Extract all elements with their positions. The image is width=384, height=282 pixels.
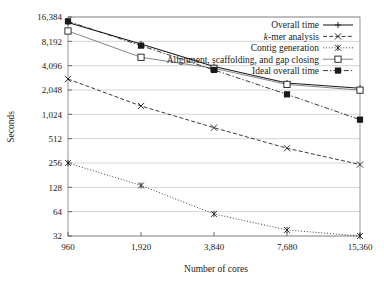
legend-item-1[interactable]: k-mer analysis — [264, 32, 353, 42]
y-axis-tick-labels: 32641282565121,0242,0484,0968,19216,384 — [37, 12, 62, 241]
legend-item-0[interactable]: Overall time — [271, 20, 353, 30]
data-point-asterisk — [335, 45, 341, 51]
data-point-asterisk — [284, 227, 290, 233]
data-point-open-square — [65, 28, 71, 34]
chart-legend: Overall timek-mer analysisContig generat… — [167, 20, 353, 76]
data-point-open-square — [357, 87, 363, 93]
data-point-open-square — [284, 81, 290, 87]
legend-item-label: Ideal overall time — [252, 66, 319, 76]
data-point-filled-square — [138, 43, 144, 49]
series-2 — [65, 160, 363, 239]
series-line — [68, 163, 360, 236]
legend-item-3[interactable]: Alignment, scaffolding, and gap closing — [167, 55, 353, 65]
y-axis-ticks-group — [68, 17, 72, 236]
x-tick-label: 960 — [61, 242, 75, 252]
y-tick-label: 2,048 — [42, 85, 63, 95]
legend-item-label: k-mer analysis — [264, 32, 319, 42]
y-tick-label: 128 — [49, 183, 63, 193]
data-point-open-square — [138, 54, 144, 60]
data-point-filled-square — [284, 91, 290, 97]
series-line — [68, 79, 360, 165]
y-tick-label: 1,024 — [42, 110, 63, 120]
data-point-cross — [284, 145, 290, 151]
data-point-filled-square — [211, 67, 217, 73]
data-point-plus — [335, 22, 341, 28]
chart-container: 32641282565121,0242,0484,0968,19216,384 … — [0, 0, 384, 282]
data-point-filled-square — [357, 117, 363, 123]
x-axis-tick-labels: 9601,9203,8407,68015,360 — [61, 242, 373, 252]
x-tick-label: 1,920 — [131, 242, 152, 252]
data-point-cross — [211, 125, 217, 131]
data-point-asterisk — [138, 182, 144, 188]
series-1 — [65, 76, 363, 168]
legend-item-label: Alignment, scaffolding, and gap closing — [167, 55, 320, 65]
y-tick-label: 8,192 — [42, 37, 62, 47]
legend-item-4[interactable]: Ideal overall time — [252, 66, 353, 76]
y-tick-label: 256 — [49, 158, 63, 168]
line-chart: 32641282565121,0242,0484,0968,19216,384 … — [0, 0, 384, 282]
y-tick-label: 512 — [49, 134, 63, 144]
data-point-asterisk — [211, 211, 217, 217]
y-tick-label: 16,384 — [37, 12, 62, 22]
data-point-filled-square — [335, 68, 341, 74]
y-tick-label: 4,096 — [42, 61, 63, 71]
y-tick-label: 32 — [53, 231, 62, 241]
y-tick-label: 64 — [53, 207, 63, 217]
x-tick-label: 3,840 — [204, 242, 225, 252]
data-point-filled-square — [65, 18, 71, 24]
y-axis-title: Seconds — [6, 111, 16, 143]
data-point-open-square — [335, 56, 341, 62]
x-axis-title: Number of cores — [184, 264, 248, 274]
legend-item-label: Overall time — [271, 20, 319, 30]
x-tick-label: 7,680 — [277, 242, 298, 252]
data-point-cross — [138, 103, 144, 109]
x-tick-label: 15,360 — [348, 242, 373, 252]
legend-item-label: Contig generation — [251, 43, 320, 53]
legend-item-2[interactable]: Contig generation — [251, 43, 353, 53]
